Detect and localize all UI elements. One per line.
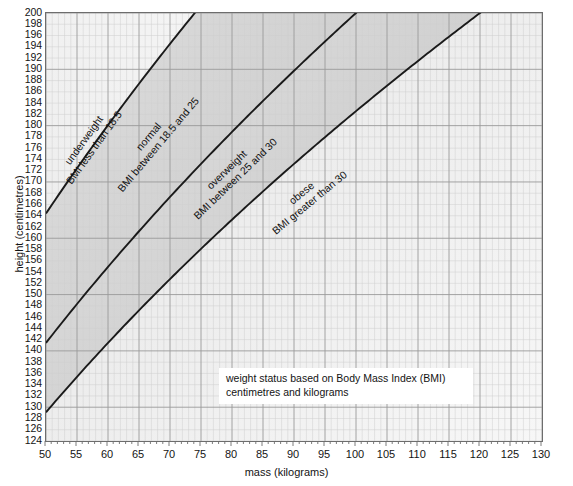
x-axis-tick-labels: 5055606570758085909510010511011512012513… xyxy=(0,0,573,486)
bmi-chart: 1241261281301321341361381401421441461481… xyxy=(0,0,573,486)
x-tick-130: 130 xyxy=(521,448,561,460)
x-axis-title: mass (kilograms) xyxy=(0,466,573,478)
